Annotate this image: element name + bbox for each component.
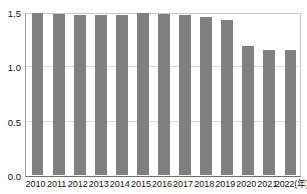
bar <box>242 46 254 175</box>
bar <box>95 15 107 175</box>
bar-slot <box>53 15 65 175</box>
bar <box>32 13 44 175</box>
x-tick-label: 2022(年) <box>275 179 302 190</box>
y-axis-tick-labels: 0.00.51.01.5 <box>0 0 23 194</box>
y-tick-label: 0.5 <box>8 118 21 128</box>
bar-slot <box>263 15 275 175</box>
bar-slot <box>95 15 107 175</box>
y-tick-label: 0.0 <box>8 172 21 182</box>
bar <box>137 13 149 175</box>
bar-slot <box>200 15 212 175</box>
bar-slot <box>74 15 86 175</box>
bar <box>116 15 128 175</box>
bar-slot <box>116 15 128 175</box>
bar-slot <box>242 15 254 175</box>
bar-slot <box>32 15 44 175</box>
bar <box>158 14 170 175</box>
clipped-caption <box>6 0 186 5</box>
bar <box>200 17 212 175</box>
plot-area <box>25 13 301 177</box>
bar-chart: 0.00.51.01.5 201020112012201320142015201… <box>0 0 307 194</box>
bar <box>53 14 65 175</box>
y-tick-label: 1.5 <box>8 9 21 19</box>
bar-series <box>27 15 299 175</box>
bar <box>263 50 275 175</box>
bar <box>221 20 233 175</box>
bar-slot <box>137 15 149 175</box>
bar <box>74 15 86 175</box>
bar-slot <box>221 15 233 175</box>
bar-slot <box>179 15 191 175</box>
bar-slot <box>285 15 297 175</box>
x-axis-tick-labels: 2010201120122013201420152016201720182019… <box>25 179 301 194</box>
y-tick-label: 1.0 <box>8 63 21 73</box>
bar <box>179 15 191 175</box>
bar <box>285 50 297 175</box>
bar-slot <box>158 15 170 175</box>
